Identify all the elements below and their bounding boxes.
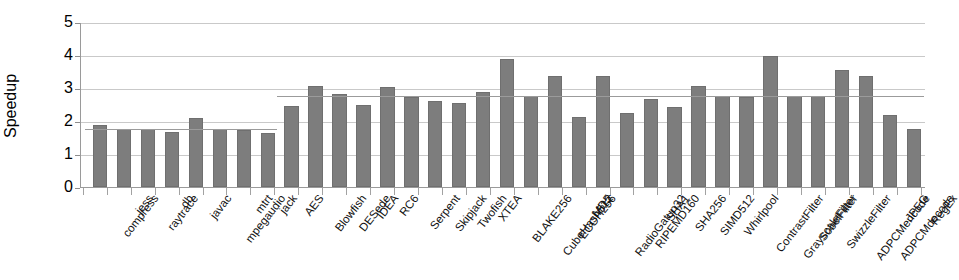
bar-db: [165, 132, 179, 187]
bar-jpeg: [883, 115, 897, 187]
x-tick-mark: [897, 188, 898, 195]
y-tick-label: 5: [47, 14, 73, 30]
bar-jack: [261, 133, 275, 187]
x-label-blake256: BLAKE256: [531, 193, 575, 244]
x-tick-mark: [657, 188, 658, 195]
x-tick-mark: [370, 188, 371, 195]
x-tick-mark: [155, 188, 156, 195]
bar-serpent: [404, 97, 418, 187]
x-tick-mark: [466, 188, 467, 195]
x-tick-mark: [801, 188, 802, 195]
bar-sobelfilter: [787, 96, 801, 187]
y-tick-label: 1: [47, 146, 73, 162]
x-tick-mark: [250, 188, 251, 195]
y-axis-title: Speedup: [2, 46, 20, 166]
bar-jess: [117, 129, 131, 187]
bar-aes: [284, 106, 298, 187]
x-tick-mark: [322, 188, 323, 195]
bar-contrastfilter: [739, 97, 753, 187]
y-tick-label: 4: [47, 47, 73, 63]
y-tick-mark: [75, 89, 80, 90]
x-tick-mark: [873, 188, 874, 195]
y-tick-mark: [75, 188, 80, 189]
bar-regex: [907, 129, 921, 187]
x-tick-mark: [825, 188, 826, 195]
bar-xtea: [476, 92, 490, 187]
x-tick-mark: [705, 188, 706, 195]
bar-desede: [332, 94, 346, 187]
x-tick-mark: [633, 188, 634, 195]
x-tick-mark: [777, 188, 778, 195]
bar-blake256: [500, 59, 514, 187]
x-tick-mark: [490, 188, 491, 195]
y-tick-mark: [75, 155, 80, 156]
x-tick-mark: [179, 188, 180, 195]
x-tick-mark: [729, 188, 730, 195]
gridline: [81, 56, 925, 57]
y-tick-mark: [75, 23, 80, 24]
bar-grayscalefilter: [763, 56, 777, 187]
bar-mpegaudio: [213, 129, 227, 187]
bar-whirlpool: [715, 96, 729, 187]
x-tick-mark: [442, 188, 443, 195]
y-tick-mark: [75, 122, 80, 123]
x-tick-mark: [586, 188, 587, 195]
bar-adpcmencode: [835, 70, 849, 187]
x-tick-mark: [131, 188, 132, 195]
bar-raytrace: [141, 129, 155, 187]
bar-radiogatun32: [596, 76, 610, 187]
reference-line-java-suite-average: [85, 129, 277, 130]
x-tick-mark: [418, 188, 419, 195]
x-tick-mark: [298, 188, 299, 195]
x-label-rc6: RC6: [398, 193, 421, 218]
y-tick-label: 0: [47, 179, 73, 195]
x-tick-mark: [107, 188, 108, 195]
bar-cubehash512: [524, 96, 538, 187]
bar-twofish: [452, 103, 466, 187]
plot-area: [80, 23, 925, 188]
y-tick-label: 3: [47, 80, 73, 96]
bar-mtrt: [237, 130, 251, 187]
reference-line-native-suite-average: [277, 96, 924, 97]
bar-skipjack: [428, 101, 442, 187]
bar-ecoh256: [548, 76, 562, 187]
y-tick-mark: [75, 56, 80, 57]
bar-ripemd160: [620, 113, 634, 187]
x-tick-mark: [83, 188, 84, 195]
bar-sha1: [644, 99, 658, 187]
bar-md5: [572, 117, 586, 187]
bar-blowfish: [308, 86, 322, 187]
bar-simd512: [691, 86, 705, 187]
x-tick-mark: [753, 188, 754, 195]
x-tick-mark: [346, 188, 347, 195]
y-tick-label: 2: [47, 113, 73, 129]
bar-idea: [356, 105, 370, 187]
gridline: [81, 23, 925, 24]
bar-rc6: [380, 87, 394, 187]
x-label-aes: AES: [302, 193, 325, 218]
bar-compress: [93, 125, 107, 187]
x-tick-mark: [538, 188, 539, 195]
bar-swizzlefilter: [811, 96, 825, 187]
bar-sha256: [667, 107, 681, 187]
x-label-javac: javac: [208, 193, 234, 221]
bar-adpcmdecode: [859, 76, 873, 187]
x-tick-mark: [203, 188, 204, 195]
